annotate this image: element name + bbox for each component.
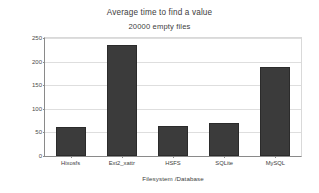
y-axis-tick-label: 50 — [35, 129, 42, 135]
x-axis-tick-mark — [173, 156, 174, 158]
y-axis-tick-label: 250 — [32, 35, 42, 41]
chart-subtitle: 20000 empty files — [0, 22, 319, 31]
x-axis-tick-label: SQLite — [215, 160, 233, 166]
chart-screenshot: Average time to find a value 20000 empty… — [0, 0, 319, 193]
bar[interactable] — [260, 67, 290, 156]
y-axis-tick-mark — [43, 156, 45, 157]
y-axis-tick-label: 150 — [32, 82, 42, 88]
plot-area: 050100150200250HixosfsExt2_xattrHSFSSQLi… — [44, 37, 302, 157]
bar-group: Ext2_xattr — [96, 38, 147, 156]
bar-group: Hixosfs — [45, 38, 96, 156]
x-axis-tick-mark — [71, 156, 72, 158]
x-axis-tick-label: MySQL — [266, 160, 285, 166]
bar[interactable] — [158, 126, 188, 156]
bar[interactable] — [107, 45, 137, 156]
chart-title: Average time to find a value — [0, 8, 319, 17]
x-axis-title: Filesystem /Database — [44, 175, 302, 182]
x-axis-tick-label: Ext2_xattr — [109, 160, 135, 166]
y-axis-tick-label: 0 — [39, 153, 42, 159]
bar[interactable] — [209, 123, 239, 156]
x-axis-tick-label: HSFS — [165, 160, 180, 166]
x-axis-tick-mark — [275, 156, 276, 158]
x-axis-tick-mark — [224, 156, 225, 158]
x-axis-tick-label: Hixosfs — [61, 160, 80, 166]
x-axis-tick-mark — [122, 156, 123, 158]
bar-group: HSFS — [147, 38, 198, 156]
bar[interactable] — [56, 127, 86, 156]
y-axis-tick-label: 200 — [32, 59, 42, 65]
bar-group: SQLite — [199, 38, 250, 156]
bar-group: MySQL — [250, 38, 301, 156]
y-axis-tick-label: 100 — [32, 106, 42, 112]
